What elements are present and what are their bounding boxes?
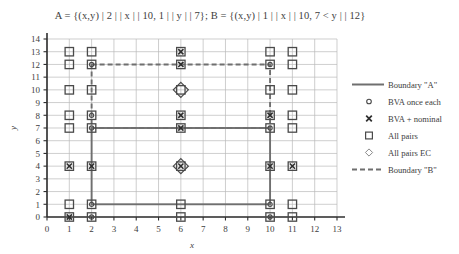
legend-item-cross[interactable]: BVA + nominal bbox=[352, 110, 457, 127]
x-tick-label: 11 bbox=[288, 224, 297, 234]
x-tick-label: 1 bbox=[67, 224, 72, 234]
diamond-icon bbox=[365, 149, 372, 156]
circle-icon bbox=[367, 99, 372, 104]
x-tick-label: 9 bbox=[246, 224, 251, 234]
dashed-line-icon bbox=[352, 161, 386, 178]
y-tick-label: 12 bbox=[31, 60, 40, 70]
x-tick-label: 2 bbox=[89, 224, 94, 234]
y-axis-label: y bbox=[8, 126, 18, 131]
x-tick-label: 10 bbox=[266, 224, 276, 234]
legend-item-label: Boundary "B" bbox=[386, 165, 437, 175]
square-icon bbox=[366, 132, 373, 139]
y-tick-label: 4 bbox=[36, 161, 41, 171]
y-tick-label: 3 bbox=[36, 174, 41, 184]
y-tick-label: 5 bbox=[36, 149, 41, 159]
y-tick-label: 10 bbox=[31, 85, 41, 95]
x-tick-label: 5 bbox=[156, 224, 161, 234]
square-icon bbox=[352, 127, 386, 144]
x-tick-label: 6 bbox=[179, 224, 184, 234]
legend-item-label: Boundary "A" bbox=[386, 80, 437, 90]
y-tick-label: 0 bbox=[36, 212, 41, 222]
legend-item-label: All pairs bbox=[386, 131, 418, 141]
legend-item-square[interactable]: All pairs bbox=[352, 127, 457, 144]
x-tick-label: 3 bbox=[112, 224, 117, 234]
y-tick-label: 9 bbox=[36, 98, 41, 108]
diamond-icon bbox=[352, 144, 386, 161]
x-tick-label: 0 bbox=[45, 224, 50, 234]
y-tick-label: 14 bbox=[31, 34, 41, 44]
legend-item-label: BVA once each bbox=[386, 97, 441, 107]
legend-item-dashed-line[interactable]: Boundary "B" bbox=[352, 161, 457, 178]
x-tick-label: 4 bbox=[134, 224, 139, 234]
y-tick-label: 1 bbox=[36, 200, 41, 210]
x-tick-label: 13 bbox=[333, 224, 343, 234]
y-tick-label: 13 bbox=[31, 47, 41, 57]
chart-legend: Boundary "A"BVA once eachBVA + nominalAl… bbox=[352, 76, 457, 178]
y-tick-label: 8 bbox=[36, 111, 41, 121]
x-tick-label: 7 bbox=[201, 224, 206, 234]
y-tick-label: 2 bbox=[36, 187, 41, 197]
circle-icon bbox=[352, 93, 386, 110]
x-axis-label: x bbox=[189, 240, 194, 250]
legend-item-solid-line[interactable]: Boundary "A" bbox=[352, 76, 457, 93]
legend-item-diamond[interactable]: All pairs EC bbox=[352, 144, 457, 161]
legend-item-label: BVA + nominal bbox=[386, 114, 442, 124]
y-tick-label: 6 bbox=[36, 136, 41, 146]
legend-item-label: All pairs EC bbox=[386, 148, 431, 158]
y-tick-label: 11 bbox=[31, 72, 40, 82]
y-tick-label: 7 bbox=[36, 123, 41, 133]
legend-item-circle[interactable]: BVA once each bbox=[352, 93, 457, 110]
solid-line-icon bbox=[352, 76, 386, 93]
x-tick-label: 8 bbox=[223, 224, 228, 234]
x-tick-label: 12 bbox=[310, 224, 319, 234]
cross-icon bbox=[352, 110, 386, 127]
